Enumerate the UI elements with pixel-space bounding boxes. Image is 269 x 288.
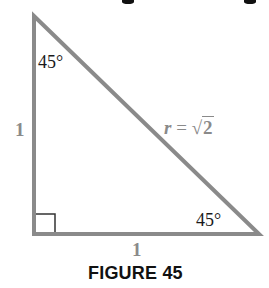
radicand: 2 — [202, 116, 214, 138]
right-angle-marker — [36, 214, 55, 232]
triangle — [34, 16, 259, 234]
top-angle-label: 45° — [38, 53, 63, 71]
sqrt-expression: √2 — [192, 118, 214, 137]
radical-sign-icon: √ — [192, 117, 202, 138]
cropped-title-glyph — [122, 0, 134, 4]
figure-caption: FIGURE 45 — [88, 264, 183, 282]
bottom-right-angle-label: 45° — [196, 211, 221, 229]
left-side-label: 1 — [15, 120, 25, 139]
figure-canvas: 45° 1 r = √2 45° 1 FIGURE 45 — [0, 0, 269, 288]
hypotenuse-equals: = — [171, 117, 191, 138]
bottom-side-label: 1 — [132, 240, 142, 259]
hypotenuse-label: r = √2 — [164, 118, 214, 137]
cropped-title-glyph — [244, 0, 256, 4]
